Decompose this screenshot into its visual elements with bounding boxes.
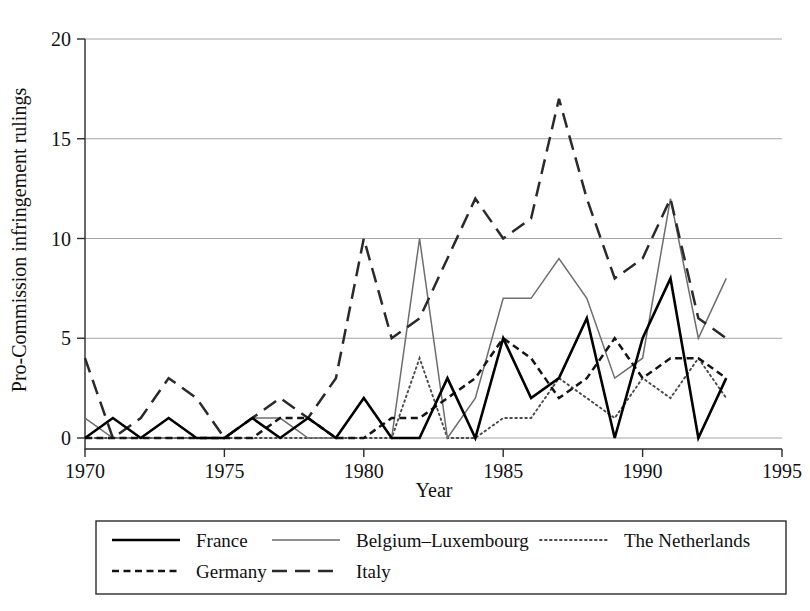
y-axis-title: Pro-Commission infringement rulings bbox=[8, 88, 31, 393]
y-tick-label-5: 5 bbox=[61, 327, 71, 349]
x-tick-label-1980: 1980 bbox=[344, 460, 384, 482]
x-tick-label-1985: 1985 bbox=[483, 460, 523, 482]
legend-label-belgium: Belgium–Luxembourg bbox=[356, 530, 529, 551]
x-tick-label-1990: 1990 bbox=[623, 460, 663, 482]
figure-background bbox=[0, 0, 810, 611]
x-tick-label-1975: 1975 bbox=[204, 460, 244, 482]
y-tick-label-0: 0 bbox=[61, 427, 71, 449]
legend-label-netherlands: The Netherlands bbox=[624, 530, 750, 551]
y-tick-label-15: 15 bbox=[51, 128, 71, 150]
y-tick-label-20: 20 bbox=[51, 28, 71, 50]
x-axis-title: Year bbox=[416, 479, 453, 501]
legend-label-italy: Italy bbox=[356, 561, 391, 582]
legend-label-france: France bbox=[196, 530, 248, 551]
x-tick-label-1970: 1970 bbox=[65, 460, 105, 482]
x-tick-label-1995: 1995 bbox=[762, 460, 802, 482]
legend-label-germany: Germany bbox=[196, 561, 267, 582]
y-tick-label-10: 10 bbox=[51, 228, 71, 250]
line-chart: Pro-Commission infringement rulings 0510… bbox=[0, 0, 810, 611]
figure-panel: Pro-Commission infringement rulings 0510… bbox=[0, 0, 810, 611]
